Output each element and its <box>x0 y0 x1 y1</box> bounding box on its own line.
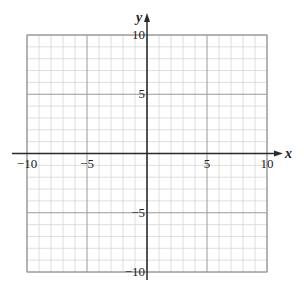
x-tick-label: 10 <box>261 156 274 171</box>
x-axis-arrow-icon <box>274 151 283 157</box>
y-tick-label: 10 <box>132 27 145 42</box>
axes <box>12 13 283 280</box>
y-tick-label: −5 <box>131 205 145 220</box>
x-axis-label: x <box>284 146 292 161</box>
x-tick-label: −10 <box>17 156 37 171</box>
y-axis-arrow-icon <box>144 13 150 22</box>
y-tick-label: −10 <box>125 264 145 279</box>
x-tick-label: −5 <box>80 156 94 171</box>
coordinate-plane: −10−5510105−5−10 x y <box>0 0 304 292</box>
y-axis-label: y <box>134 10 143 25</box>
x-tick-label: 5 <box>204 156 211 171</box>
y-tick-label: 5 <box>139 86 146 101</box>
